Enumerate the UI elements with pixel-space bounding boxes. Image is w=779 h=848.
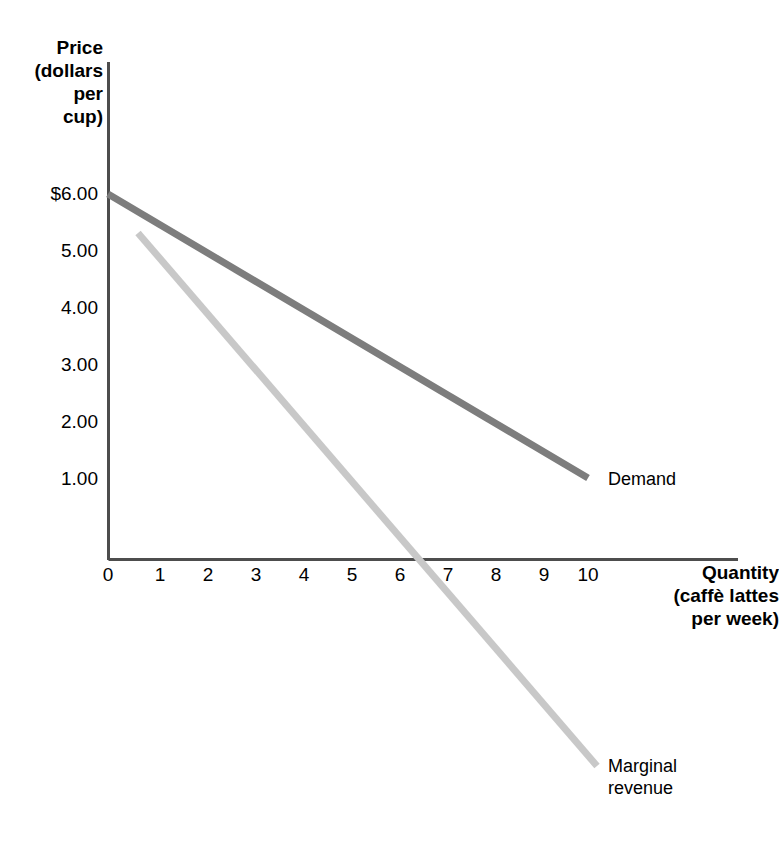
- y-tick-label-4: 4.00: [22, 297, 98, 319]
- demand-curve: [108, 194, 588, 478]
- y-axis-title: Price (dollars per cup): [0, 36, 103, 128]
- demand-curve-label: Demand: [608, 468, 676, 490]
- marginal-revenue-curve-label: Marginal revenue: [608, 755, 677, 799]
- marginal-revenue-curve: [138, 233, 597, 766]
- y-tick-label-2: 2.00: [22, 411, 98, 433]
- demand-marginal-revenue-chart: Price (dollars per cup) Quantity (caffè …: [0, 0, 779, 848]
- y-tick-label-3: 3.00: [22, 354, 98, 376]
- y-tick-label-5: 5.00: [22, 240, 98, 262]
- y-tick-label-6: $6.00: [22, 183, 98, 205]
- x-tick-label-9: 9: [524, 564, 564, 586]
- x-tick-label-4: 4: [284, 564, 324, 586]
- x-tick-label-5: 5: [332, 564, 372, 586]
- y-tick-label-1: 1.00: [22, 468, 98, 490]
- x-axis-title: Quantity (caffè lattes per week): [652, 561, 779, 630]
- x-tick-label-3: 3: [236, 564, 276, 586]
- x-tick-label-8: 8: [476, 564, 516, 586]
- x-tick-label-6: 6: [380, 564, 420, 586]
- x-tick-label-10: 10: [568, 564, 608, 586]
- x-tick-label-1: 1: [140, 564, 180, 586]
- x-tick-label-7: 7: [428, 564, 468, 586]
- x-tick-label-0: 0: [88, 564, 128, 586]
- chart-plot-area: [0, 0, 779, 848]
- x-tick-label-2: 2: [188, 564, 228, 586]
